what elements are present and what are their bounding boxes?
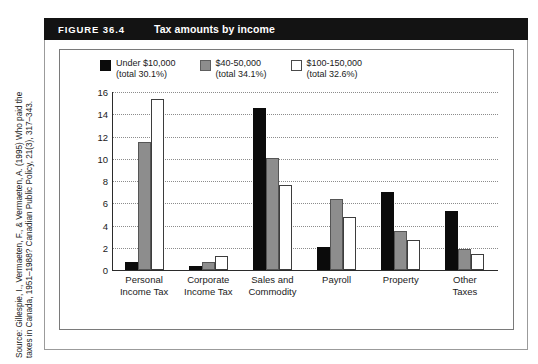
x-axis-category-line: Other	[452, 274, 477, 286]
bar	[189, 266, 202, 270]
chart-card: Under $10,000(total 30.1%)$40-50,000(tot…	[59, 49, 514, 330]
bar-group	[253, 92, 292, 270]
bar	[266, 158, 279, 270]
bar	[471, 254, 484, 270]
bar	[151, 99, 164, 270]
x-axis-category-line: Corporate	[184, 274, 232, 286]
y-axis-tick-label: 14	[97, 109, 108, 120]
bar	[279, 185, 292, 270]
bar	[138, 142, 151, 270]
x-axis-category-line: Payroll	[322, 274, 351, 286]
bar	[458, 249, 471, 270]
x-axis-category-line: Sales and	[248, 274, 296, 286]
bars-layer	[112, 92, 497, 270]
x-axis-category-label: CorporateIncome Tax	[184, 274, 232, 297]
y-axis-tick-label: 10	[97, 153, 108, 164]
x-axis-category-line: Taxes	[452, 286, 477, 298]
bar	[394, 231, 407, 270]
y-axis-tick-label: 12	[97, 131, 108, 142]
figure-header-bar: FIGURE 36.4 Tax amounts by income	[44, 18, 528, 40]
figure-title-label: Tax amounts by income	[125, 23, 275, 35]
bar	[445, 211, 458, 270]
x-axis-category-label: Sales andCommodity	[248, 274, 296, 297]
x-axis-category-line: Income Tax	[184, 286, 232, 298]
y-axis-tick-label: 0	[103, 265, 108, 276]
source-note-line-1: Source: Gillespie, I., Vermaeten, F., & …	[15, 92, 24, 358]
bar	[215, 256, 228, 270]
bar	[330, 199, 343, 270]
y-axis-tick-label: 2	[103, 242, 108, 253]
bar	[317, 247, 330, 270]
x-axis-category-line: Income Tax	[120, 286, 168, 298]
bar	[407, 240, 420, 270]
x-axis-category-label: Payroll	[322, 274, 351, 286]
bar	[125, 262, 138, 270]
figure-number-label: FIGURE 36.4	[44, 24, 125, 35]
plot-wrapper: 0246810121416 PersonalIncome TaxCorporat…	[60, 50, 515, 331]
x-axis-category-line: Personal	[120, 274, 168, 286]
source-note-line-2: taxes in Canada, 1951–1988? Canadian Pub…	[25, 101, 34, 358]
x-axis-category-line: Property	[383, 274, 419, 286]
x-axis-category-label: Property	[383, 274, 419, 286]
bar-group	[445, 92, 484, 270]
y-axis-tick-label: 16	[97, 87, 108, 98]
bar-group	[317, 92, 356, 270]
figure-container: FIGURE 36.4 Tax amounts by income Under …	[44, 18, 528, 350]
bar	[381, 192, 394, 270]
bar	[202, 262, 215, 270]
x-axis-category-label: PersonalIncome Tax	[120, 274, 168, 297]
y-axis-tick-label: 6	[103, 198, 108, 209]
bar-group	[125, 92, 164, 270]
x-axis-category-label: OtherTaxes	[452, 274, 477, 297]
bar-group	[381, 92, 420, 270]
source-note: Source: Gillespie, I., Vermaeten, F., & …	[0, 0, 44, 364]
figure-body-panel: Under $10,000(total 30.1%)$40-50,000(tot…	[44, 40, 528, 350]
y-axis-tick-label: 4	[103, 220, 108, 231]
bar-group	[189, 92, 228, 270]
bar	[343, 217, 356, 270]
bar	[253, 108, 266, 270]
y-axis-tick-label: 8	[103, 176, 108, 187]
x-axis-category-line: Commodity	[248, 286, 296, 298]
